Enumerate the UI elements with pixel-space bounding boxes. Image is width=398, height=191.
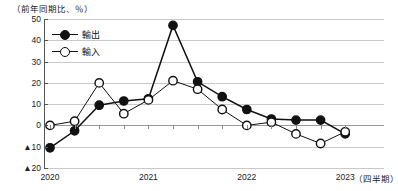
data-point-exports	[169, 21, 177, 29]
data-point-imports	[120, 110, 128, 118]
y-axis-tick-mark	[44, 104, 48, 105]
legend-item-exports: 輸出	[52, 26, 100, 43]
x-axis-tick-mark	[198, 125, 199, 129]
data-point-exports	[95, 101, 103, 109]
data-point-imports	[169, 77, 177, 85]
y-axis-tick-label: 40	[32, 35, 41, 45]
y-axis-tick-label: 10	[32, 99, 41, 109]
x-axis-tick-mark	[148, 125, 149, 129]
y-axis-tick-label: ▲20	[23, 163, 41, 173]
x-axis-group-label: 2021	[139, 172, 158, 182]
y-axis-tick-mark	[44, 125, 48, 126]
gridline	[44, 168, 384, 169]
legend-item-imports: 輸入	[52, 43, 100, 60]
y-axis-tick-mark	[44, 83, 48, 84]
data-point-imports	[193, 85, 201, 93]
y-axis-tick-label: 0	[36, 120, 41, 130]
y-axis-tick-labels: 50403020100▲10▲20	[0, 19, 41, 168]
x-axis-tick-mark	[173, 125, 174, 129]
legend-label-imports: 輸入	[82, 45, 100, 58]
x-axis-group-label: 2022	[237, 172, 256, 182]
x-axis-unit-label: （四半期）	[354, 172, 398, 184]
data-point-exports	[46, 144, 54, 152]
y-axis-tick-mark	[44, 40, 48, 41]
y-axis-tick-label: 50	[32, 14, 41, 24]
data-point-exports	[292, 116, 300, 124]
legend-marker-filled-circle-icon	[52, 34, 78, 35]
y-axis-tick-label: 30	[32, 57, 41, 67]
data-point-imports	[218, 105, 226, 113]
y-axis-tick-mark	[44, 147, 48, 148]
y-axis-tick-mark	[44, 168, 48, 169]
chart-legend: 輸出 輸入	[52, 26, 100, 60]
x-axis-tick-mark	[50, 125, 51, 129]
chart-container: （前年同期比、％） 50403020100▲10▲20 202020212022…	[0, 0, 398, 191]
data-point-imports	[95, 79, 103, 87]
data-point-exports	[218, 93, 226, 101]
data-point-imports	[144, 96, 152, 104]
x-axis-tick-mark	[75, 125, 76, 129]
y-axis-tick-label: 20	[32, 78, 41, 88]
x-axis-tick-mark	[222, 125, 223, 129]
x-axis-tick-mark	[271, 125, 272, 129]
data-point-imports	[316, 139, 324, 147]
x-axis-group-label: 2023	[336, 172, 355, 182]
data-point-exports	[243, 105, 251, 113]
x-axis-tick-mark	[296, 125, 297, 129]
data-point-exports	[316, 116, 324, 124]
y-axis-tick-label: ▲10	[23, 142, 41, 152]
x-axis-tick-mark	[321, 125, 322, 129]
x-axis-tick-mark	[99, 125, 100, 129]
x-axis-tick-mark	[124, 125, 125, 129]
x-axis-tick-mark	[345, 125, 346, 129]
data-point-imports	[70, 117, 78, 125]
x-axis-tick-mark	[247, 125, 248, 129]
x-axis-group-label: 2020	[41, 172, 60, 182]
legend-label-exports: 輸出	[82, 28, 100, 41]
y-axis-unit-label: （前年同期比、％）	[12, 2, 93, 14]
data-point-imports	[292, 130, 300, 138]
y-axis-tick-mark	[44, 62, 48, 63]
y-axis-tick-mark	[44, 19, 48, 20]
data-point-exports	[120, 97, 128, 105]
legend-marker-open-circle-icon	[52, 51, 78, 52]
